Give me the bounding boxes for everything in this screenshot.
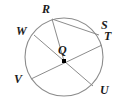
segment-chord-rs <box>52 19 99 35</box>
point-label-v: V <box>14 73 22 85</box>
center-point-marker <box>62 59 66 63</box>
point-label-r: R <box>42 3 50 15</box>
point-label-q: Q <box>58 44 67 56</box>
point-label-t: T <box>104 30 111 42</box>
point-label-w: W <box>16 25 27 37</box>
circle-geometry-figure: R S T U V W Q <box>0 0 125 110</box>
point-label-u: U <box>100 84 109 96</box>
